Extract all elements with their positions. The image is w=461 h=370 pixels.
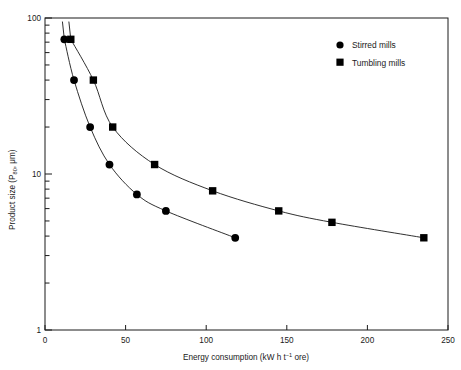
data-point [133, 190, 141, 198]
data-point [420, 234, 427, 241]
data-point [231, 234, 239, 242]
data-point [106, 161, 114, 169]
x-tick-label-250: 250 [441, 336, 455, 345]
data-point [209, 187, 216, 194]
data-point [328, 219, 335, 226]
y-tick-label-10: 10 [32, 170, 42, 179]
y-axis-minor-ticks [45, 25, 50, 283]
legend-marker-circle-icon [336, 41, 343, 48]
y-axis-title-tail: , μm) [8, 149, 17, 168]
data-point [90, 76, 97, 83]
x-axis-title-tail: ore) [292, 353, 309, 362]
x-axis-ticks [45, 325, 448, 330]
x-tick-label-50: 50 [121, 336, 131, 345]
x-axis-tick-labels: 050100150200250 [43, 336, 456, 345]
x-tick-label-100: 100 [199, 336, 213, 345]
x-tick-label-0: 0 [43, 336, 48, 345]
legend-label-stirred-mills: Stirred mills [352, 40, 396, 50]
x-axis-title-main: Energy consumption (kW h t [183, 353, 287, 362]
series-stirred-mills [60, 22, 239, 242]
series-tumbling-mills [67, 22, 427, 242]
data-point [60, 35, 68, 43]
y-tick-label-1: 1 [36, 326, 41, 335]
x-tick-label-200: 200 [361, 336, 375, 345]
legend-label-tumbling-mills: Tumbling mills [352, 58, 405, 68]
x-tick-label-150: 150 [280, 336, 294, 345]
y-axis-title-main: Product size (P [8, 174, 17, 230]
data-series-layer [60, 22, 427, 242]
svg-text:Product size (P80, μm): Product size (P80, μm) [8, 149, 18, 230]
x-axis-title: Energy consumption (kW h t−1 ore) [183, 352, 309, 362]
data-point [162, 207, 170, 215]
data-point [275, 207, 282, 214]
series-curve [69, 22, 424, 238]
data-point [70, 76, 78, 84]
y-axis-title: Product size (P80, μm) [8, 149, 18, 230]
data-point [151, 161, 158, 168]
y-tick-label-100: 100 [27, 14, 41, 23]
data-point [109, 123, 116, 130]
y-axis-tick-labels: 100 10 1 [27, 14, 41, 335]
data-point [86, 123, 94, 131]
legend-marker-square-icon [336, 59, 343, 66]
chart-legend: Stirred mills Tumbling mills [336, 40, 405, 68]
chart-figure: 100 10 1 050100150200250 Product size (P… [0, 0, 461, 370]
data-point [67, 36, 74, 43]
svg-text:Energy consumption (kW h t−1 o: Energy consumption (kW h t−1 ore) [183, 352, 309, 362]
